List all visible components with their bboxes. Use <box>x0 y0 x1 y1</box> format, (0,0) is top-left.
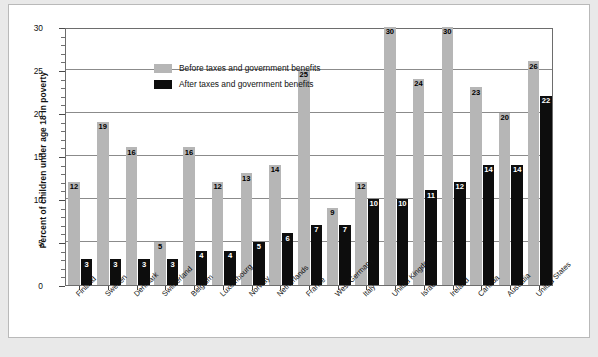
y-tick-label-15: 15 <box>17 152 43 162</box>
legend-swatch-after-icon <box>154 80 172 89</box>
bar-value-label: 12 <box>68 182 80 192</box>
chart-legend: Before taxes and government benefits Aft… <box>154 61 404 93</box>
bar-value-label: 3 <box>138 260 150 270</box>
bar-before-denmark <box>126 147 138 285</box>
bar-value-label: 3 <box>110 260 122 270</box>
bar-value-label: 6 <box>282 234 294 244</box>
bar-before-finland <box>68 182 80 285</box>
bar-value-label: 12 <box>355 182 367 192</box>
y-tick-label-0: 0 <box>17 281 43 291</box>
bar-after-united-kingdom <box>397 199 409 285</box>
bar-after-israel <box>425 190 437 285</box>
bar-value-label: 13 <box>241 174 253 184</box>
bar-before-sweden <box>97 122 109 285</box>
bar-value-label: 19 <box>97 122 109 132</box>
bar-value-label: 3 <box>81 260 93 270</box>
bar-after-canada <box>483 165 495 285</box>
bar-before-netherlands <box>269 165 281 285</box>
bar-before-france <box>298 70 310 285</box>
bar-after-ireland <box>454 182 466 285</box>
bar-value-label: 16 <box>183 148 195 158</box>
bar-value-label: 3 <box>167 260 179 270</box>
bar-before-united-states <box>528 61 540 285</box>
bar-value-label: 30 <box>442 27 454 37</box>
bar-value-label: 5 <box>253 242 265 252</box>
poverty-bar-chart: Percent of children under age 18 in pove… <box>9 5 591 339</box>
y-tick-label-25: 25 <box>17 66 43 76</box>
bar-value-label: 16 <box>126 148 138 158</box>
legend-label-before: Before taxes and government benefits <box>179 63 321 73</box>
bar-before-belgium <box>183 147 195 285</box>
y-tick-label-10: 10 <box>17 195 43 205</box>
bar-value-label: 14 <box>511 165 523 175</box>
y-tick-label-20: 20 <box>17 109 43 119</box>
bar-value-label: 10 <box>368 199 380 209</box>
legend-item-after: After taxes and government benefits <box>154 77 404 91</box>
bar-before-ireland <box>442 27 454 285</box>
bar-value-label: 7 <box>339 225 351 235</box>
page-background: Percent of children under age 18 in pove… <box>0 0 598 357</box>
legend-swatch-before-icon <box>154 64 172 73</box>
bar-value-label: 11 <box>425 191 437 201</box>
y-tick-label-30: 30 <box>17 23 43 33</box>
bar-after-australia <box>511 165 523 285</box>
bar-before-west-germany <box>327 208 339 285</box>
y-tick-major-0 <box>59 286 65 287</box>
bar-value-label: 30 <box>384 27 396 37</box>
bar-value-label: 23 <box>470 88 482 98</box>
plot-area: 1231931635316412413514625797121030102411… <box>65 28 553 286</box>
bar-before-israel <box>413 79 425 285</box>
bar-value-label: 14 <box>483 165 495 175</box>
bar-value-label: 12 <box>212 182 224 192</box>
bar-value-label: 20 <box>499 113 511 123</box>
bar-value-label: 9 <box>327 208 339 218</box>
bar-after-italy <box>368 199 380 285</box>
bar-value-label: 5 <box>154 242 166 252</box>
bar-value-label: 4 <box>196 251 208 261</box>
figure-sheet: Percent of children under age 18 in pove… <box>8 4 590 338</box>
bar-after-united-states <box>540 96 552 285</box>
bar-value-label: 12 <box>454 182 466 192</box>
legend-item-before: Before taxes and government benefits <box>154 61 404 75</box>
bar-before-canada <box>470 87 482 285</box>
bar-value-label: 4 <box>224 251 236 261</box>
bar-before-luxembourg <box>212 182 224 285</box>
bar-value-label: 10 <box>397 199 409 209</box>
legend-label-after: After taxes and government benefits <box>179 79 314 89</box>
bar-value-label: 26 <box>528 62 540 72</box>
bar-value-label: 22 <box>540 96 552 106</box>
bar-value-label: 7 <box>311 225 323 235</box>
y-tick-label-5: 5 <box>17 238 43 248</box>
bar-before-australia <box>499 113 511 285</box>
bar-value-label: 24 <box>413 79 425 89</box>
bar-value-label: 14 <box>269 165 281 175</box>
